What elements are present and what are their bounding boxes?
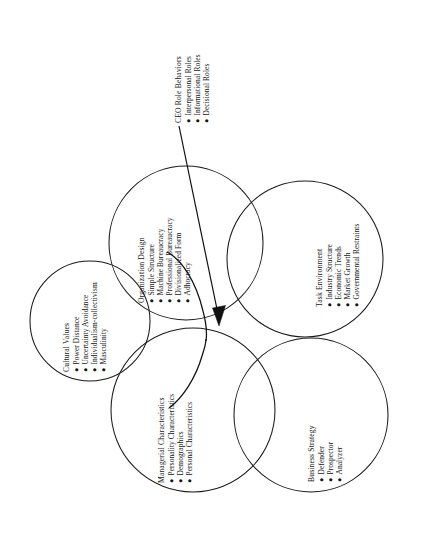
bullet-icon: ● xyxy=(183,298,192,303)
bullet-icon: ● xyxy=(167,478,176,483)
list-item: ●Informational Roles xyxy=(193,54,202,123)
list-item: ●Professional Bureaucracy xyxy=(165,217,174,303)
list-item-label: Power Distance xyxy=(72,317,81,365)
list-item-label: Market Growth xyxy=(343,252,352,299)
bullet-icon: ● xyxy=(335,477,344,482)
list-item-label: Decisional Roles xyxy=(202,64,211,116)
list-item-label: Individualism-collectivism xyxy=(90,282,99,364)
diagram-canvas xyxy=(0,0,427,538)
heading-ceo-role-behaviors: CEO Role Behaviors xyxy=(174,54,183,123)
list-item: ●Uncertainty Avoidance xyxy=(81,282,90,372)
list-item: ●Governmental Restraints xyxy=(352,224,361,307)
list-item: ●Power Distance xyxy=(72,282,81,372)
bullet-icon: ● xyxy=(81,367,90,372)
list-item: ●Divisionalized Form xyxy=(174,217,183,303)
list-item: ●Market Growth xyxy=(343,224,352,307)
list-item: ●Personal Characteristics xyxy=(185,394,194,483)
heading-cultural-values: Cultural Values xyxy=(62,282,71,372)
list-item: ●Adhocracy xyxy=(183,217,192,303)
bullet-icon: ● xyxy=(174,298,183,303)
list-item-label: Masculinity xyxy=(99,328,108,364)
list-item: ●Machine Bureaucracy xyxy=(156,217,165,303)
bullet-icon: ● xyxy=(334,302,343,307)
list-item-label: Analyzer xyxy=(335,447,344,475)
bullet-icon: ● xyxy=(176,478,185,483)
list-item-label: Professional Bureaucracy xyxy=(165,217,174,295)
bullet-icon: ● xyxy=(343,302,352,307)
arrow-head-ceo-role-behaviors xyxy=(213,306,226,327)
label-block-organization-design: Organization Design ●Simple Structure ●M… xyxy=(137,217,192,303)
bullet-icon: ● xyxy=(72,367,81,372)
list-item: ●Interpersonal Roles xyxy=(184,54,193,123)
bullet-icon: ● xyxy=(90,367,99,372)
list-item: ●Industry Structure xyxy=(325,224,334,307)
bullet-icon: ● xyxy=(147,298,156,303)
list-item-label: Industry Structure xyxy=(325,244,334,299)
bullet-icon: ● xyxy=(202,118,211,123)
bullet-icon: ● xyxy=(326,477,335,482)
list-item-label: Divisionalized Form xyxy=(174,233,183,296)
list-item: ●Prospector xyxy=(326,425,335,482)
heading-business-strategy: Business Strategy xyxy=(307,425,316,482)
bullet-icon: ● xyxy=(352,302,361,307)
list-item-label: Governmental Restraints xyxy=(352,224,361,300)
list-item-label: Economic Trends xyxy=(334,246,343,299)
list-item: ●Defender xyxy=(317,425,326,482)
heading-organization-design: Organization Design xyxy=(137,217,146,303)
list-ceo-role-behaviors: ●Interpersonal Roles ●Informational Role… xyxy=(184,54,211,123)
list-item: ●Analyzer xyxy=(335,425,344,482)
list-item-label: Demographics xyxy=(176,431,185,475)
venn-diagram-figure: Cultural Values ●Power Distance ●Uncerta… xyxy=(0,0,427,538)
bullet-icon: ● xyxy=(193,118,202,123)
list-item-label: Prospector xyxy=(326,442,335,475)
bullet-icon: ● xyxy=(325,302,334,307)
list-item-label: Personality Characteristics xyxy=(167,394,176,476)
bullet-icon: ● xyxy=(185,478,194,483)
list-item: ●Decisional Roles xyxy=(202,54,211,123)
list-item: ●Masculinity xyxy=(99,282,108,372)
list-task-environment: ●Industry Structure ●Economic Trends ●Ma… xyxy=(325,224,361,307)
bullet-icon: ● xyxy=(184,118,193,123)
list-item: ●Simple Structure xyxy=(147,217,156,303)
bullet-icon: ● xyxy=(156,298,165,303)
list-item-label: Defender xyxy=(317,446,326,474)
label-block-ceo-role-behaviors: CEO Role Behaviors ●Interpersonal Roles … xyxy=(174,54,211,123)
list-item-label: Adhocracy xyxy=(183,262,192,295)
bullet-icon: ● xyxy=(165,298,174,303)
label-block-cultural-values: Cultural Values ●Power Distance ●Uncerta… xyxy=(62,282,108,372)
bullet-icon: ● xyxy=(317,477,326,482)
bullet-icon: ● xyxy=(99,367,108,372)
list-business-strategy: ●Defender ●Prospector ●Analyzer xyxy=(317,425,344,482)
list-item-label: Uncertainty Avoidance xyxy=(81,295,90,365)
list-item: ●Economic Trends xyxy=(334,224,343,307)
list-item-label: Interpersonal Roles xyxy=(184,56,193,116)
label-block-managerial-characteristics: Managerial Characteristics ●Personality … xyxy=(157,394,194,483)
list-item: ●Personality Characteristics xyxy=(167,394,176,483)
label-block-business-strategy: Business Strategy ●Defender ●Prospector … xyxy=(307,425,344,482)
list-item: ●Demographics xyxy=(176,394,185,483)
list-managerial-characteristics: ●Personality Characteristics ●Demographi… xyxy=(167,394,194,483)
list-item-label: Personal Characteristics xyxy=(185,402,194,476)
heading-task-environment: Task Environment xyxy=(315,224,324,307)
heading-managerial-characteristics: Managerial Characteristics xyxy=(157,394,166,483)
list-item-label: Simple Structure xyxy=(147,244,156,295)
list-item-label: Informational Roles xyxy=(193,54,202,115)
label-block-task-environment: Task Environment ●Industry Structure ●Ec… xyxy=(315,224,361,307)
list-organization-design: ●Simple Structure ●Machine Bureaucracy ●… xyxy=(147,217,192,303)
list-item-label: Machine Bureaucracy xyxy=(156,229,165,296)
list-item: ●Individualism-collectivism xyxy=(90,282,99,372)
list-cultural-values: ●Power Distance ●Uncertainty Avoidance ●… xyxy=(72,282,108,372)
